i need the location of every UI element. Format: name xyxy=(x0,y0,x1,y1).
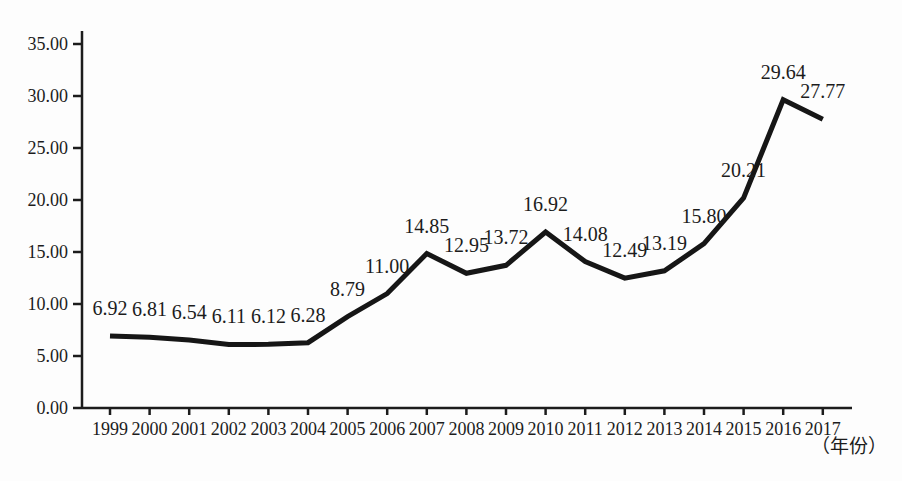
data-label: 15.80 xyxy=(682,205,727,227)
data-label: 13.19 xyxy=(642,232,687,254)
x-tick-label: 2005 xyxy=(330,419,366,439)
x-tick-label: 2006 xyxy=(369,419,405,439)
data-label: 12.49 xyxy=(602,239,647,261)
y-tick-label: 15.00 xyxy=(28,242,69,262)
line-chart: 0.005.0010.0015.0020.0025.0030.0035.0019… xyxy=(0,0,902,481)
y-tick-label: 5.00 xyxy=(37,346,69,366)
y-tick-label: 10.00 xyxy=(28,294,69,314)
x-tick-label: 2011 xyxy=(568,419,603,439)
data-label: 6.54 xyxy=(172,301,207,323)
data-label: 14.08 xyxy=(563,223,608,245)
x-tick-label: 2013 xyxy=(646,419,682,439)
data-label: 8.79 xyxy=(330,278,365,300)
data-label: 11.00 xyxy=(365,255,409,277)
data-label: 6.81 xyxy=(132,298,167,320)
line-chart-figure: 0.005.0010.0015.0020.0025.0030.0035.0019… xyxy=(0,0,902,481)
x-tick-label: 2002 xyxy=(211,419,247,439)
y-tick-label: 30.00 xyxy=(28,86,69,106)
data-label: 12.95 xyxy=(444,234,489,256)
data-label: 6.12 xyxy=(251,305,286,327)
y-tick-label: 35.00 xyxy=(28,34,69,54)
y-tick-label: 0.00 xyxy=(37,398,69,418)
x-tick-label: 2010 xyxy=(528,419,564,439)
x-tick-label: 2004 xyxy=(290,419,326,439)
y-tick-label: 25.00 xyxy=(28,138,69,158)
x-tick-label: 2003 xyxy=(250,419,286,439)
data-label: 20.21 xyxy=(721,159,766,181)
data-label: 13.72 xyxy=(484,226,529,248)
x-tick-label: 2001 xyxy=(171,419,207,439)
x-tick-label: 2000 xyxy=(132,419,168,439)
data-label: 6.11 xyxy=(212,305,246,327)
x-axis-unit-label: （年份） xyxy=(811,436,887,457)
data-label: 16.92 xyxy=(523,193,568,215)
data-label: 6.28 xyxy=(291,304,326,326)
data-label: 6.92 xyxy=(93,297,128,319)
x-tick-label: 2009 xyxy=(488,419,524,439)
x-tick-label: 1999 xyxy=(92,419,128,439)
x-tick-label: 2012 xyxy=(607,419,643,439)
y-tick-label: 20.00 xyxy=(28,190,69,210)
data-label: 27.77 xyxy=(800,80,845,102)
x-tick-label: 2007 xyxy=(409,419,445,439)
data-label: 29.64 xyxy=(761,61,806,83)
x-tick-label: 2008 xyxy=(448,419,484,439)
x-tick-label: 2014 xyxy=(686,419,722,439)
x-tick-label: 2015 xyxy=(726,419,762,439)
data-label: 14.85 xyxy=(404,215,449,237)
x-tick-label: 2016 xyxy=(765,419,801,439)
